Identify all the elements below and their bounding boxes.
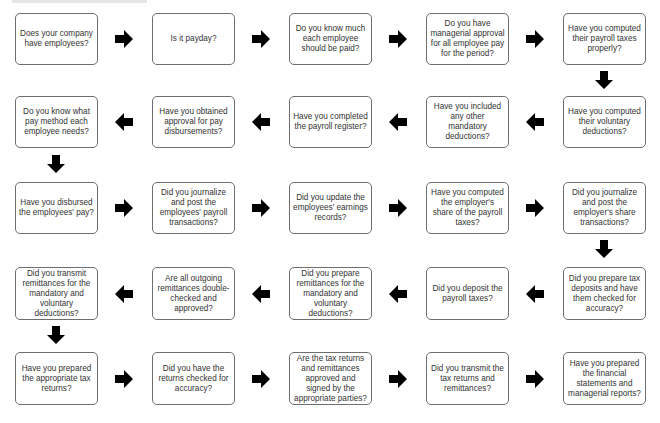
step-label: Have you computed their voluntary deduct…: [567, 107, 642, 137]
step-label: Did you journalize and post the employer…: [567, 188, 642, 228]
arrow-right-icon: [389, 370, 407, 388]
arrow-right-icon: [526, 370, 544, 388]
step-box: Did you prepare remittances for the mand…: [289, 267, 372, 320]
step-label: Have you completed the payroll register?: [293, 112, 368, 132]
arrow-left-icon: [389, 285, 407, 303]
arrow-down-icon: [595, 71, 613, 89]
arrow-left-icon: [115, 113, 133, 131]
step-box: Have you computed their voluntary deduct…: [563, 96, 646, 148]
step-label: Do you know much each employee should be…: [293, 24, 368, 54]
arrow-right-icon: [526, 30, 544, 48]
step-box: Did you transmit the tax returns and rem…: [426, 352, 509, 405]
step-box: Did you transmit remittances for the man…: [15, 267, 98, 320]
step-label: Does your company have employees?: [19, 29, 94, 49]
step-box: Do you have managerial approval for all …: [426, 13, 509, 65]
step-label: Have you obtained approval for pay disbu…: [156, 107, 231, 137]
step-box: Have you prepared the financial statemen…: [563, 352, 646, 405]
step-label: Did you transmit remittances for the man…: [19, 269, 94, 319]
arrow-right-icon: [115, 370, 133, 388]
step-box: Have you disbursed the employees' pay?: [15, 182, 98, 234]
step-box: Are all outgoing remittances double-chec…: [152, 267, 235, 320]
step-label: Is it payday?: [171, 34, 217, 44]
arrow-left-icon: [526, 285, 544, 303]
arrow-left-icon: [389, 113, 407, 131]
arrow-down-icon: [595, 240, 613, 258]
step-label: Do you know what pay method each employe…: [19, 107, 94, 137]
step-box: Is it payday?: [152, 13, 235, 65]
step-label: Did you prepare remittances for the mand…: [293, 269, 368, 319]
step-label: Have you computed the employer's share o…: [430, 188, 505, 228]
arrow-right-icon: [252, 30, 270, 48]
step-label: Have you computed their payroll taxes pr…: [567, 24, 642, 54]
step-box: Have you computed their payroll taxes pr…: [563, 13, 646, 65]
step-box: Have you prepared the appropriate tax re…: [15, 352, 98, 405]
arrow-left-icon: [115, 285, 133, 303]
arrow-down-icon: [47, 326, 65, 344]
step-box: Did you deposit the payroll taxes?: [426, 267, 509, 320]
step-label: Are all outgoing remittances double-chec…: [156, 274, 231, 314]
step-label: Did you prepare tax deposits and have th…: [567, 274, 642, 314]
step-box: Did you prepare tax deposits and have th…: [563, 267, 646, 320]
step-label: Did you deposit the payroll taxes?: [430, 284, 505, 304]
arrow-left-icon: [252, 285, 270, 303]
step-box: Have you included any other mandatory de…: [426, 96, 509, 148]
step-box: Does your company have employees?: [15, 13, 98, 65]
arrow-right-icon: [389, 30, 407, 48]
step-label: Have you prepared the financial statemen…: [567, 359, 642, 399]
arrow-right-icon: [252, 199, 270, 217]
step-box: Did you have the returns checked for acc…: [152, 352, 235, 405]
step-label: Did you transmit the tax returns and rem…: [430, 364, 505, 394]
step-box: Have you completed the payroll register?: [289, 96, 372, 148]
step-label: Did you update the employees' earnings r…: [293, 193, 368, 223]
step-label: Did you journalize and post the employee…: [156, 188, 231, 228]
step-label: Did you have the returns checked for acc…: [156, 364, 231, 394]
arrow-left-icon: [252, 113, 270, 131]
step-label: Do you have managerial approval for all …: [430, 19, 505, 59]
step-label: Have you disbursed the employees' pay?: [19, 198, 94, 218]
step-label: Are the tax returns and remittances appr…: [293, 354, 368, 404]
step-box: Have you computed the employer's share o…: [426, 182, 509, 234]
step-box: Did you journalize and post the employee…: [152, 182, 235, 234]
arrow-right-icon: [115, 30, 133, 48]
step-box: Have you obtained approval for pay disbu…: [152, 96, 235, 148]
arrow-right-icon: [526, 199, 544, 217]
arrow-right-icon: [389, 199, 407, 217]
step-box: Are the tax returns and remittances appr…: [289, 352, 372, 405]
arrow-down-icon: [47, 155, 65, 173]
arrow-left-icon: [526, 113, 544, 131]
step-box: Did you update the employees' earnings r…: [289, 182, 372, 234]
arrow-right-icon: [115, 199, 133, 217]
cut-off-title: [12, 0, 147, 3]
step-box: Do you know much each employee should be…: [289, 13, 372, 65]
step-label: Have you included any other mandatory de…: [430, 102, 505, 142]
step-box: Did you journalize and post the employer…: [563, 182, 646, 234]
step-label: Have you prepared the appropriate tax re…: [19, 364, 94, 394]
arrow-right-icon: [252, 370, 270, 388]
step-box: Do you know what pay method each employe…: [15, 96, 98, 148]
